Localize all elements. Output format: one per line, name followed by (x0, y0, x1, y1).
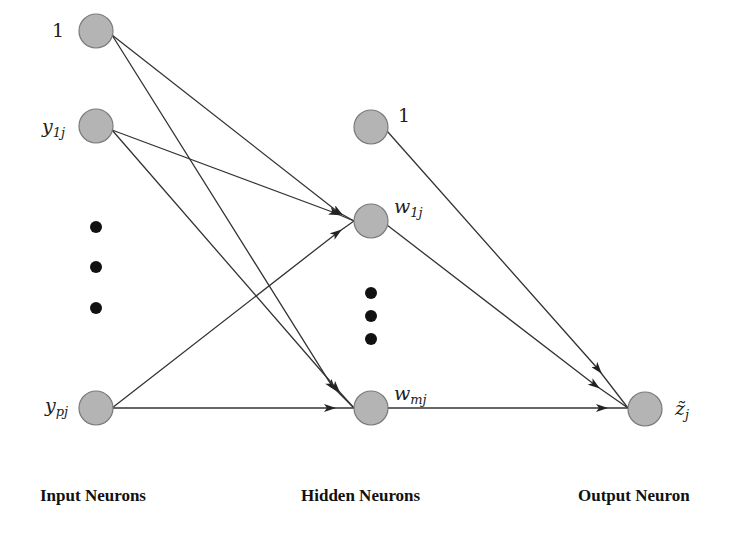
output-layer-label: Output Neuron (578, 486, 690, 506)
edge-in-bias-to-w1 (112, 35, 354, 221)
input-layer: 1 y1j ypj (41, 14, 113, 425)
hidden-w1-node (354, 204, 388, 238)
input-ellipsis-dot (90, 221, 102, 233)
edge-hidden-bias-to-z (387, 131, 628, 408)
neural-network-diagram: 1 y1j ypj 1 w1j wmj z̃j (0, 0, 739, 544)
output-layer: z̃j (628, 392, 689, 426)
hidden-bias-label: 1 (398, 104, 410, 126)
hidden-bias-node (354, 110, 388, 144)
hidden-ellipsis-dot (365, 287, 377, 299)
hidden-ellipsis-dot (365, 333, 377, 345)
hidden-wm-node (354, 391, 388, 425)
edge-y1-to-wm (112, 130, 354, 408)
edge-in-bias-to-wm (112, 35, 354, 408)
edge-yp-to-w1 (112, 221, 354, 408)
edge-y1-to-w1 (112, 130, 354, 221)
input-y1-node (79, 109, 113, 143)
input-yp-node (79, 391, 113, 425)
output-z-label: z̃j (674, 397, 689, 422)
input-y1-label: y1j (41, 115, 65, 140)
hidden-wm-label: wmj (394, 382, 427, 407)
input-bias-node (79, 14, 113, 48)
input-ellipsis-dot (90, 302, 102, 314)
edge-w1-to-z (387, 225, 628, 408)
hidden-layer: 1 w1j wmj (354, 104, 427, 425)
hidden-w1-label: w1j (394, 195, 423, 220)
hidden-ellipsis-dot (365, 310, 377, 322)
input-ellipsis-dot (90, 261, 102, 273)
output-z-node (628, 392, 662, 426)
input-layer-label: Input Neurons (40, 486, 146, 506)
hidden-layer-label: Hidden Neurons (301, 486, 420, 506)
input-yp-label: ypj (44, 394, 68, 419)
input-bias-label: 1 (52, 19, 64, 41)
